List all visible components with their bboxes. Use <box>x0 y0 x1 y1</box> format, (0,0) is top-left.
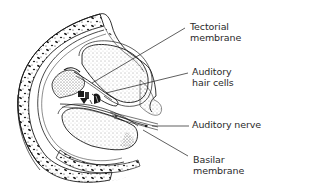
label-tectorial-membrane: Tectorial membrane <box>190 21 241 43</box>
label-auditory-nerve: Auditory nerve <box>192 119 261 130</box>
label-basilar-membrane: Basilar membrane <box>193 154 244 176</box>
hair-cells <box>78 91 101 104</box>
upper-chamber <box>79 41 152 107</box>
label-auditory-hair-cells: Auditory hair cells <box>192 66 234 88</box>
leader-basilar <box>143 130 188 156</box>
lower-chamber <box>58 104 138 150</box>
